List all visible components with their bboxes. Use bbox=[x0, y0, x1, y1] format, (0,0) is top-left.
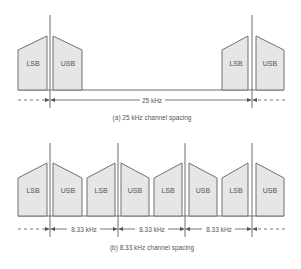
arrow-left-icon bbox=[185, 227, 190, 231]
spacing-label: 25 kHz bbox=[142, 97, 162, 104]
arrow-right-icon bbox=[247, 227, 252, 231]
channel-b-3: LSB USB bbox=[154, 143, 217, 237]
dimension-a: 25 kHz bbox=[18, 97, 286, 104]
arrow-left-icon bbox=[252, 98, 257, 102]
arrow-right-icon bbox=[45, 98, 50, 102]
arrow-right-icon bbox=[113, 227, 118, 231]
usb-label: USB bbox=[196, 187, 211, 194]
lsb-label: LSB bbox=[229, 60, 243, 67]
caption-b: (b) 8.33 kHz channel spacing bbox=[110, 244, 195, 252]
arrow-left-icon bbox=[252, 227, 257, 231]
lsb-label: LSB bbox=[94, 187, 108, 194]
lsb-label: LSB bbox=[26, 60, 40, 67]
channel-b-4: LSB USB bbox=[222, 143, 284, 237]
caption-a: (a) 25 kHz channel spacing bbox=[113, 114, 192, 122]
spacing-label: 8.33 kHz bbox=[139, 226, 165, 233]
lsb-label: LSB bbox=[26, 187, 40, 194]
dimension-b: 8.33 kHz 8.33 kHz 8.33 kHz bbox=[18, 226, 286, 233]
usb-label: USB bbox=[263, 60, 278, 67]
lsb-label: LSB bbox=[229, 187, 243, 194]
spacing-label: 8.33 kHz bbox=[206, 226, 232, 233]
channel-a-1: LSB USB bbox=[18, 15, 82, 108]
arrow-right-icon bbox=[247, 98, 252, 102]
usb-label: USB bbox=[61, 187, 76, 194]
channel-b-2: LSB USB bbox=[87, 143, 149, 237]
arrow-left-icon bbox=[50, 98, 55, 102]
diagram-a: LSB USB LSB USB 25 kHz (a) 25 kHz channe… bbox=[18, 15, 286, 122]
arrow-left-icon bbox=[50, 227, 55, 231]
channel-a-2: LSB USB bbox=[222, 15, 284, 108]
spacing-label: 8.33 kHz bbox=[71, 226, 97, 233]
arrow-right-icon bbox=[45, 227, 50, 231]
lsb-label: LSB bbox=[161, 187, 175, 194]
arrow-left-icon bbox=[118, 227, 123, 231]
arrow-right-icon bbox=[180, 227, 185, 231]
diagram-b: LSB USB LSB USB LSB USB LSB USB bbox=[18, 143, 286, 252]
usb-label: USB bbox=[128, 187, 143, 194]
usb-label: USB bbox=[61, 60, 76, 67]
channel-b-1: LSB USB bbox=[18, 143, 82, 237]
usb-label: USB bbox=[263, 187, 278, 194]
channel-spacing-diagram: LSB USB LSB USB 25 kHz (a) 25 kHz channe… bbox=[0, 0, 301, 269]
